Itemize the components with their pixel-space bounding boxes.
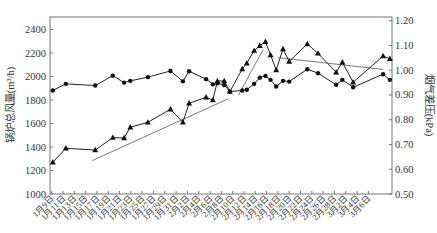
circle-marker xyxy=(222,83,226,87)
trend-3-line xyxy=(278,58,383,70)
left-tick-label: 1400 xyxy=(25,142,46,153)
right-tick-label: 0.70 xyxy=(395,139,413,150)
triangle-marker xyxy=(262,39,268,44)
right-tick-label: 1.10 xyxy=(395,40,413,51)
x-axis: 1月9日1月11日1月13日1月15日1月17日1月19日1月21日1月23日1… xyxy=(30,191,373,222)
plot-frame xyxy=(50,17,392,194)
circle-marker xyxy=(51,88,55,92)
circle-marker xyxy=(263,74,267,78)
dual-axis-line-chart: 10001200140016001800200022002400 0.500.6… xyxy=(0,0,437,233)
circle-marker xyxy=(351,85,355,89)
circle-marker xyxy=(215,81,219,85)
circle-marker xyxy=(334,83,338,87)
circle-marker xyxy=(258,75,262,79)
circle-marker xyxy=(240,88,244,92)
triangle-marker xyxy=(203,94,209,99)
right-tick-label: 1.20 xyxy=(395,15,413,26)
circle-marker xyxy=(93,83,97,87)
triangle-marker xyxy=(268,52,274,57)
circle-marker xyxy=(340,78,344,82)
left-tick-label: 2200 xyxy=(25,48,46,59)
right-tick-label: 0.60 xyxy=(395,164,413,175)
circle-marker xyxy=(287,79,291,83)
circle-marker xyxy=(268,78,272,82)
circle-marker xyxy=(122,80,126,84)
series-line xyxy=(53,69,390,91)
triangle-marker xyxy=(304,41,310,46)
circle-marker xyxy=(316,71,320,75)
left-tick-label: 1200 xyxy=(25,165,46,176)
circle-marker xyxy=(128,79,132,83)
triangle-marker xyxy=(244,60,250,65)
left-axis: 10001200140016001800200022002400 xyxy=(25,24,53,200)
triangle-marker xyxy=(257,43,263,48)
left-axis-title: 锅炉总风量(m³/h) xyxy=(4,66,17,143)
right-tick-label: 0.90 xyxy=(395,89,413,100)
circle-marker xyxy=(187,69,191,73)
left-tick-label: 2000 xyxy=(25,71,46,82)
circle-marker xyxy=(168,69,172,73)
triangle-marker xyxy=(63,145,69,150)
right-tick-label: 0.50 xyxy=(395,189,413,200)
triangle-marker xyxy=(339,59,345,64)
circle-marker xyxy=(281,79,285,83)
circle-marker xyxy=(211,82,215,86)
triangle-marker xyxy=(145,119,151,124)
right-axis-title: 烟气差压(kPa) xyxy=(423,74,436,137)
circle-marker xyxy=(245,88,249,92)
triangle-marker xyxy=(380,53,386,58)
circle-marker xyxy=(181,79,185,83)
left-tick-label: 1600 xyxy=(25,118,46,129)
right-axis: 0.500.600.700.800.901.001.101.20 xyxy=(389,15,413,199)
right-tick-label: 0.80 xyxy=(395,114,413,125)
circle-marker xyxy=(274,84,278,88)
left-tick-label: 1800 xyxy=(25,95,46,106)
circle-marker xyxy=(381,72,385,76)
series-flue-gas-pressure-diff xyxy=(51,67,392,94)
circle-marker xyxy=(111,73,115,77)
circle-marker xyxy=(228,89,232,93)
circle-marker xyxy=(305,67,309,71)
circle-marker xyxy=(252,82,256,86)
triangle-marker xyxy=(280,46,286,51)
circle-marker xyxy=(204,77,208,81)
circle-marker xyxy=(64,82,68,86)
circle-marker xyxy=(388,78,392,82)
circle-marker xyxy=(146,75,150,79)
triangle-marker xyxy=(167,106,173,111)
triangle-marker xyxy=(110,134,116,139)
right-tick-label: 1.00 xyxy=(395,65,413,76)
trend-1-line xyxy=(92,99,228,161)
left-tick-label: 2400 xyxy=(25,24,46,35)
left-tick-label: 1000 xyxy=(25,189,46,200)
triangle-marker xyxy=(273,67,279,72)
